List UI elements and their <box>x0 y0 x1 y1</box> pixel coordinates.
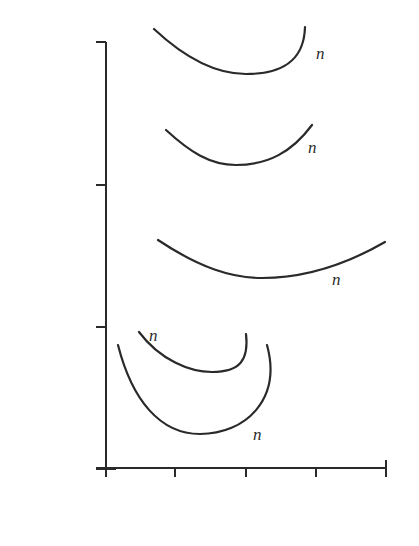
curve-label-upper-n1: n <box>308 138 317 157</box>
curve-upper-n0 <box>154 27 305 74</box>
curves <box>118 27 385 434</box>
curve-label-upper-n0: n <box>316 44 325 63</box>
chart: n n n n n <box>0 0 419 546</box>
x-axis <box>96 460 386 477</box>
curve-label-lower-n0: n <box>149 326 158 345</box>
curve-upper-n1 <box>166 125 312 165</box>
curve-label-lower-n1: n <box>253 425 262 444</box>
curve-label-middle-n0: n <box>332 270 341 289</box>
curve-middle-n0 <box>158 240 385 278</box>
y-axis <box>96 42 116 469</box>
curve-lower-n1 <box>118 345 270 434</box>
